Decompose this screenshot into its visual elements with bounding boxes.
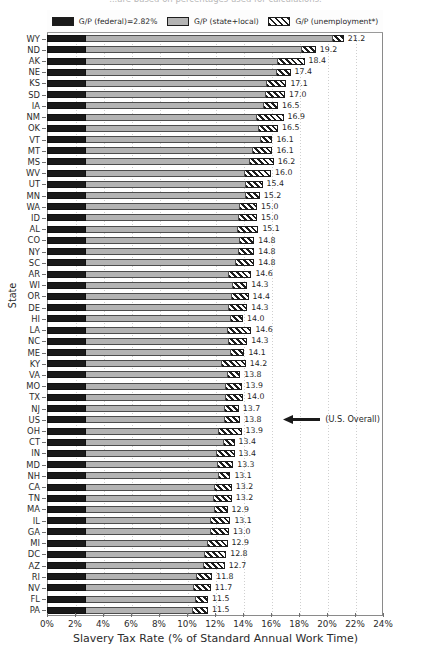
legend-item-federal: G/P (federal)=2.82% (52, 17, 158, 26)
y-tick-mark (42, 420, 46, 421)
bar-segment-unemployment (333, 35, 344, 42)
x-tick-label-20%: 20% (317, 619, 337, 629)
bar-segment-federal (47, 405, 86, 412)
bar-row: 12.9 (47, 504, 383, 514)
x-tick-mark (271, 613, 272, 617)
bar-segment-federal (47, 428, 86, 435)
y-tick-mark (42, 431, 46, 432)
legend-label-federal: G/P (federal)=2.82% (79, 17, 158, 26)
y-tick-label-NC: NC (28, 337, 40, 345)
bar-segment-unemployment (264, 102, 278, 109)
bar-segment-federal (47, 248, 86, 255)
bar-row: 16.0 (47, 168, 383, 178)
stacked-bar (47, 271, 251, 278)
stacked-bar (47, 192, 260, 199)
stacked-bar (47, 596, 208, 603)
bar-row: 13.8 (47, 370, 383, 380)
bar-row: 17.1 (47, 78, 383, 88)
y-tick-label-CO: CO (28, 236, 40, 244)
stacked-bar (47, 315, 243, 322)
y-tick-label-AK: AK (29, 57, 40, 65)
bar-segment-unemployment (211, 528, 229, 535)
bar-segment-state-local (86, 405, 225, 412)
stacked-bar (47, 35, 344, 42)
bar-segment-federal (47, 304, 86, 311)
bar-segment-state-local (86, 517, 211, 524)
bar-row: 18.4 (47, 56, 383, 66)
bar-row: 14.3 (47, 303, 383, 313)
bar-segment-unemployment (250, 158, 274, 165)
stacked-bar (47, 136, 272, 143)
y-tick-mark (42, 140, 46, 141)
bar-value-label: 11.7 (215, 584, 232, 592)
bar-segment-state-local (86, 181, 246, 188)
bar-segment-federal (47, 461, 86, 468)
legend-swatch-unemployment-icon (268, 17, 290, 26)
bar-row: 12.7 (47, 561, 383, 571)
bar-value-label: 17.0 (289, 91, 306, 99)
left-arrow-icon (282, 414, 322, 425)
y-tick-label-SC: SC (29, 259, 40, 267)
y-tick-label-NH: NH (27, 472, 40, 480)
bar-row: 14.0 (47, 314, 383, 324)
stacked-bar (47, 383, 242, 390)
y-tick-label-MN: MN (27, 191, 41, 199)
y-tick-label-IL: IL (33, 516, 40, 524)
y-tick-mark (42, 577, 46, 578)
bar-value-label: 13.0 (233, 528, 250, 536)
bar-value-label: 14.4 (253, 293, 270, 301)
x-axis-tick-labels: 0%2%4%6%8%10%12%14%16%18%20%22%24% (47, 617, 383, 631)
x-tick-label-24%: 24% (373, 619, 393, 629)
x-tick-label-16%: 16% (261, 619, 281, 629)
bar-segment-unemployment (225, 416, 240, 423)
bar-segment-federal (47, 147, 86, 154)
bar-segment-unemployment (231, 315, 243, 322)
bar-segment-federal (47, 551, 86, 558)
bar-segment-federal (47, 315, 86, 322)
bar-segment-state-local (86, 136, 261, 143)
stacked-bar (47, 69, 291, 76)
us-overall-label: (U.S. Overall) (325, 414, 380, 424)
bar-value-label: 17.1 (290, 80, 307, 88)
x-tick-mark (215, 613, 216, 617)
stacked-bar (47, 528, 229, 535)
bar-segment-federal (47, 416, 86, 423)
y-tick-mark (42, 162, 46, 163)
bar-segment-unemployment (215, 506, 227, 513)
stacked-bar (47, 517, 230, 524)
stacked-bar (47, 203, 257, 210)
stacked-bar (47, 114, 284, 121)
bar-segment-state-local (86, 203, 240, 210)
bar-segment-unemployment (226, 394, 243, 401)
bar-segment-state-local (86, 338, 229, 345)
y-tick-mark (42, 184, 46, 185)
bar-segment-federal (47, 528, 86, 535)
bar-segment-state-local (86, 315, 230, 322)
bar-segment-unemployment (266, 91, 285, 98)
x-axis-title: Slavery Tax Rate (% of Standard Annual W… (0, 632, 431, 645)
x-tick-mark (47, 613, 48, 617)
bar-segment-unemployment (233, 282, 247, 289)
bar-segment-state-local (86, 360, 222, 367)
bar-row: 11.5 (47, 594, 383, 604)
bar-segment-state-local (86, 271, 229, 278)
y-tick-label-OH: OH (27, 427, 40, 435)
bar-segment-unemployment (267, 80, 286, 87)
bar-value-label: 14.2 (250, 360, 267, 368)
x-tick-mark (383, 613, 384, 617)
stacked-bar (47, 551, 226, 558)
y-tick-label-ME: ME (27, 348, 40, 356)
y-tick-mark (42, 453, 46, 454)
y-tick-label-SD: SD (28, 90, 40, 98)
y-tick-mark (42, 274, 46, 275)
y-tick-mark (42, 196, 46, 197)
stacked-bar (47, 562, 225, 569)
bar-row: 15.0 (47, 202, 383, 212)
y-tick-mark (42, 106, 46, 107)
y-tick-mark (42, 95, 46, 96)
bar-segment-unemployment (240, 237, 254, 244)
stacked-bar (47, 439, 235, 446)
bar-segment-federal (47, 136, 86, 143)
bar-row: 14.0 (47, 392, 383, 402)
bar-value-label: 14.3 (251, 304, 268, 312)
